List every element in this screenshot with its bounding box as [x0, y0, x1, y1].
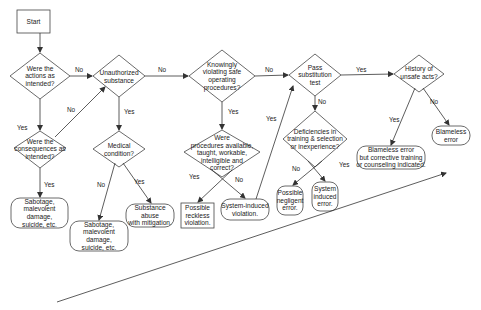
blameless-error-label: Blameless error: [432, 126, 470, 145]
edge-label-history-no: No: [430, 98, 438, 105]
edge-label-consequences-yes: Yes: [44, 181, 54, 188]
edge-label-knowingly-no: No: [265, 66, 273, 73]
procedures-available-label: Were procedures available, taught, worka…: [184, 133, 260, 173]
reckless-violation-label: Possible reckless violation.: [181, 203, 214, 228]
edge-label-knowingly-yes: Yes: [228, 108, 238, 115]
edge-label-medical-no: No: [97, 181, 105, 188]
medical-condition-label: Medical condition?: [93, 141, 145, 158]
edge-label-substitution-no: No: [318, 98, 326, 105]
sabotage-1-label: Sabotage, malevolent damage, suicide, et…: [11, 198, 68, 228]
knowingly-violating-label: Knowingly violating safe operating proce…: [192, 60, 252, 92]
edge-label-procedures-no: No: [235, 176, 243, 183]
sabotage-2-label: Sabotage, malevolent damage, suicide, et…: [70, 221, 128, 251]
edge-label-actions-yes: Yes: [17, 124, 27, 131]
unauthorized-substance-label: Unauthorized substance: [93, 68, 145, 85]
pass-substitution-label: Pass substitution test: [289, 63, 341, 87]
substance-abuse-label: Substance abuse with mitigation.: [126, 204, 174, 227]
start-label: Start: [17, 10, 50, 33]
edge-label-deficiencies-no: No: [292, 165, 300, 172]
blameless-corrective-label: Blameless error but corrective training …: [355, 146, 427, 169]
edge-label-substance-yes: Yes: [124, 108, 134, 115]
system-induced-error-label: System induced error.: [312, 182, 338, 211]
history-unsafe-label: History of unsafe acts?: [394, 64, 444, 82]
edge-label-deficiencies-yes: Yes: [339, 161, 349, 168]
edge-label-substitution-yes: Yes: [356, 66, 366, 73]
edge-label-consequences-no: No: [67, 106, 75, 113]
edge-label-substance-no: No: [158, 66, 166, 73]
negligent-error-label: Possible negligent error.: [277, 186, 303, 215]
deficiencies-label: Deficiencies in training & selection or …: [281, 127, 349, 151]
edge-label-procedures-yes: Yes: [189, 173, 199, 180]
consequences-intended-label: Were the consequences as intended?: [12, 136, 68, 162]
actions-intended-label: Were the actions as intended?: [10, 61, 70, 91]
system-induced-violation-label: System-induced violation.: [221, 199, 269, 220]
edge-label-medical-yes: Yes: [134, 178, 144, 185]
edge-label-history-yes: Yes: [389, 116, 399, 123]
edge-label-actions-no: No: [75, 66, 83, 73]
edge-label-system-violation-yes: Yes: [266, 115, 276, 122]
